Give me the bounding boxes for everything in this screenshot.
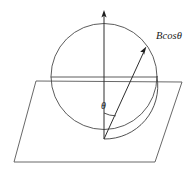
bcos-theta-label: Bcosθ	[156, 31, 182, 42]
physics-diagram: Bcosθ θ	[0, 0, 195, 176]
quadrant-arc	[104, 77, 158, 139]
theta-label: θ	[101, 101, 106, 111]
parallelogram-plane	[14, 81, 182, 162]
diagram-canvas	[0, 0, 195, 176]
theta-arc	[104, 113, 116, 116]
